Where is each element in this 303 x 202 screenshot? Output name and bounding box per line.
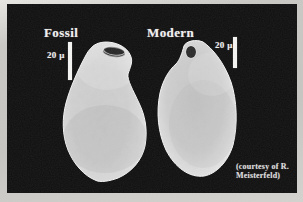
scale-bar-line-modern [233,37,237,68]
scale-bar-line-fossil [68,42,72,80]
credit-line-2: Meisterfeld) [236,171,297,180]
scale-bar-label-fossil: 20 μ [47,50,65,60]
figure-frame: Fossil Modern 20 μ 20 μ (courtesy of R. … [0,0,303,202]
credit-line-1: (courtesy of R. [236,162,297,171]
credit-text: (courtesy of R. Meisterfeld) [236,162,297,180]
scale-bar-label-modern: 20 μ [215,40,233,50]
sem-photo: Fossil Modern 20 μ 20 μ (courtesy of R. … [7,4,297,193]
panel-label-fossil: Fossil [44,25,78,41]
panel-label-modern: Modern [147,25,194,41]
